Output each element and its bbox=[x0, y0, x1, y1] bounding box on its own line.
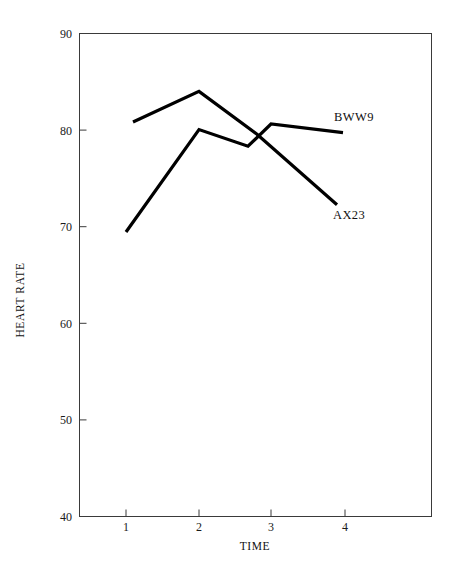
y-tick-label-60: 60 bbox=[60, 317, 72, 331]
y-axis-tick-labels: 90 80 70 60 50 40 bbox=[60, 27, 72, 524]
x-tick-label-1: 1 bbox=[123, 520, 129, 534]
series-label-ax23: AX23 bbox=[333, 208, 365, 222]
y-axis-title: HEART RATE bbox=[14, 262, 26, 337]
y-tick-label-90: 90 bbox=[60, 27, 72, 41]
y-axis-ticks bbox=[80, 34, 87, 517]
y-tick-label-50: 50 bbox=[60, 413, 72, 427]
y-tick-label-70: 70 bbox=[60, 220, 72, 234]
series-line-ax23 bbox=[126, 124, 343, 232]
plot-frame bbox=[80, 34, 432, 517]
x-axis-tick-labels: 1 2 3 4 bbox=[123, 520, 348, 534]
series-line-bww9 bbox=[133, 91, 337, 204]
y-tick-label-40: 40 bbox=[60, 510, 72, 524]
x-axis-ticks bbox=[126, 510, 345, 517]
x-axis-title: TIME bbox=[240, 540, 271, 552]
line-chart-svg: 90 80 70 60 50 40 1 2 3 4 TIME HEART RAT… bbox=[0, 0, 451, 561]
x-tick-label-4: 4 bbox=[342, 520, 348, 534]
x-tick-label-3: 3 bbox=[268, 520, 274, 534]
y-tick-label-80: 80 bbox=[60, 124, 72, 138]
x-tick-label-2: 2 bbox=[196, 520, 202, 534]
series-label-bww9: BWW9 bbox=[334, 110, 374, 124]
chart-figure: 90 80 70 60 50 40 1 2 3 4 TIME HEART RAT… bbox=[0, 0, 451, 561]
